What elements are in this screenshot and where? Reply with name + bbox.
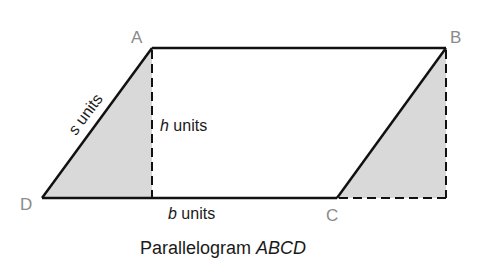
parallelogram-diagram: A B C D s units h units b units Parallel… — [0, 0, 477, 274]
vertex-label-c: C — [326, 206, 338, 225]
height-label: h units — [160, 117, 207, 134]
height-variable: h — [160, 117, 169, 134]
vertex-label-d: D — [20, 195, 32, 214]
base-variable: b — [168, 205, 177, 222]
base-label: b units — [168, 205, 215, 222]
caption-italic: ABCD — [255, 238, 306, 258]
height-unit: units — [169, 117, 207, 134]
vertex-label-b: B — [450, 28, 461, 47]
base-unit: units — [177, 205, 215, 222]
vertex-label-a: A — [131, 28, 143, 47]
diagram-caption: Parallelogram ABCD — [140, 238, 306, 258]
caption-text: Parallelogram — [140, 238, 251, 258]
